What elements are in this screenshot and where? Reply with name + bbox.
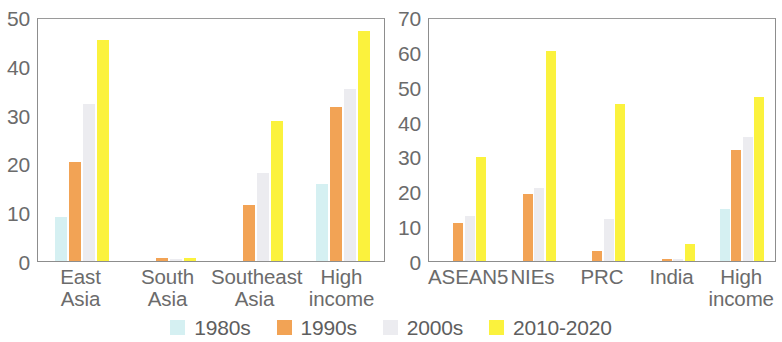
- bar: [720, 209, 730, 261]
- plot-area-right: [428, 18, 776, 262]
- bar-group: [142, 19, 196, 261]
- chart-panel-right: 010203040506070 ASEAN5NIEsPRCIndiaHighin…: [391, 0, 782, 310]
- x-tick-label: India: [637, 266, 707, 288]
- y-tick-label: 10: [7, 203, 30, 224]
- legend-swatch-icon: [383, 320, 398, 335]
- y-tick-label: 30: [398, 147, 421, 168]
- y-tick-label: 40: [398, 112, 421, 133]
- x-tick-label-line1: Southeast: [211, 265, 302, 288]
- y-tick-label: 0: [19, 252, 30, 273]
- legend-label: 2010-2020: [513, 317, 612, 338]
- bar-group: [229, 19, 283, 261]
- bar: [330, 107, 342, 261]
- legend-label: 1980s: [194, 317, 250, 338]
- y-tick-label: 50: [398, 77, 421, 98]
- bar: [465, 216, 475, 261]
- x-tick-label: SoutheastAsia: [211, 266, 298, 310]
- legend-entry[interactable]: 2000s: [383, 317, 463, 338]
- x-tick-label-line1: High: [720, 265, 762, 288]
- x-tick-label-line1: East: [60, 265, 101, 288]
- x-tick-label-line2: Asia: [124, 288, 211, 310]
- bar: [83, 104, 95, 261]
- bar: [615, 104, 625, 261]
- bar: [243, 205, 255, 261]
- x-tick-label-line1: PRC: [580, 265, 623, 288]
- y-tick-label: 20: [398, 182, 421, 203]
- y-tick-label: 40: [7, 56, 30, 77]
- plot-area-left: [37, 18, 385, 262]
- bar-group: [650, 19, 695, 261]
- bar-group: [720, 19, 765, 261]
- bar-group: [442, 19, 487, 261]
- bar: [754, 97, 764, 261]
- x-tick-label: PRC: [567, 266, 637, 288]
- x-tick-label-line1: India: [650, 265, 694, 288]
- y-axis-right: 010203040506070: [391, 0, 425, 262]
- y-tick-label: 70: [398, 8, 421, 29]
- bar: [534, 188, 544, 261]
- bar-group: [511, 19, 556, 261]
- y-tick-label: 10: [398, 217, 421, 238]
- x-axis-labels-right: ASEAN5NIEsPRCIndiaHighincome: [428, 266, 776, 312]
- bar: [685, 244, 695, 261]
- bar: [476, 157, 486, 261]
- x-tick-label-line2: income: [298, 288, 385, 310]
- bar: [271, 121, 283, 261]
- bar-group: [55, 19, 109, 261]
- bar: [546, 51, 556, 261]
- bar: [97, 40, 109, 261]
- legend-label: 2000s: [407, 317, 463, 338]
- y-tick-label: 30: [7, 105, 30, 126]
- y-tick-label: 20: [7, 154, 30, 175]
- bar: [604, 219, 614, 261]
- y-tick-label: 0: [410, 252, 421, 273]
- x-tick-label: SouthAsia: [124, 266, 211, 310]
- bar: [257, 173, 269, 261]
- x-tick-label: ASEAN5: [428, 266, 498, 288]
- legend-swatch-icon: [277, 320, 292, 335]
- bar-series-group-left: [38, 19, 384, 261]
- x-tick-label: Highincome: [298, 266, 385, 310]
- y-axis-left: 01020304050: [0, 0, 34, 262]
- bar: [662, 259, 672, 261]
- bar: [731, 150, 741, 261]
- bar: [592, 251, 602, 261]
- x-tick-label-line2: Asia: [211, 288, 298, 310]
- legend-swatch-icon: [489, 320, 504, 335]
- x-tick-label-line2: income: [706, 288, 776, 310]
- x-tick-label: NIEs: [498, 266, 568, 288]
- x-tick-label-line2: Asia: [37, 288, 124, 310]
- bar: [673, 259, 683, 261]
- legend-entry[interactable]: 2010-2020: [489, 317, 612, 338]
- bar: [344, 89, 356, 261]
- legend-label: 1990s: [301, 317, 357, 338]
- chart-legend: 1980s1990s2000s2010-2020: [0, 312, 782, 342]
- bar-group: [581, 19, 626, 261]
- x-tick-label-line1: ASEAN5: [428, 265, 508, 288]
- bar: [156, 258, 168, 261]
- x-tick-label: EastAsia: [37, 266, 124, 310]
- y-tick-label: 60: [398, 42, 421, 63]
- x-tick-label-line1: NIEs: [510, 265, 554, 288]
- legend-swatch-icon: [170, 320, 185, 335]
- x-axis-labels-left: EastAsiaSouthAsiaSoutheastAsiaHighincome: [37, 266, 385, 312]
- bar-chart-figure: 01020304050 EastAsiaSouthAsiaSoutheastAs…: [0, 0, 782, 342]
- x-tick-label-line1: South: [141, 265, 194, 288]
- legend-entry[interactable]: 1980s: [170, 317, 250, 338]
- bar: [743, 137, 753, 261]
- chart-panel-left: 01020304050 EastAsiaSouthAsiaSoutheastAs…: [0, 0, 391, 310]
- legend-entry[interactable]: 1990s: [277, 317, 357, 338]
- bar: [69, 162, 81, 261]
- x-tick-label: Highincome: [706, 266, 776, 310]
- y-tick-label: 50: [7, 8, 30, 29]
- bar: [523, 194, 533, 261]
- bar: [316, 184, 328, 261]
- bar: [170, 259, 182, 261]
- bar: [453, 223, 463, 261]
- bar-group: [316, 19, 370, 261]
- x-tick-label-line1: High: [321, 265, 363, 288]
- bar: [184, 258, 196, 261]
- bar: [55, 217, 67, 261]
- bar: [358, 31, 370, 261]
- bar-series-group-right: [429, 19, 775, 261]
